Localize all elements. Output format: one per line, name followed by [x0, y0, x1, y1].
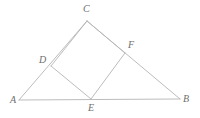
vertex-label-c: C — [83, 4, 90, 14]
figure-canvas — [0, 0, 200, 118]
square-side-DE — [51, 66, 91, 99]
side-AC — [19, 21, 87, 100]
vertex-label-b: B — [183, 94, 189, 104]
geometry-figure: A B C D E F — [0, 0, 200, 118]
vertex-label-f: F — [128, 40, 134, 50]
side-AB — [19, 99, 180, 100]
square-side-CF — [87, 21, 125, 53]
square-side-EF — [91, 53, 125, 99]
vertex-label-e: E — [88, 103, 94, 113]
vertex-label-d: D — [39, 55, 46, 65]
vertex-label-a: A — [10, 95, 16, 105]
square-side-DC — [51, 21, 87, 66]
